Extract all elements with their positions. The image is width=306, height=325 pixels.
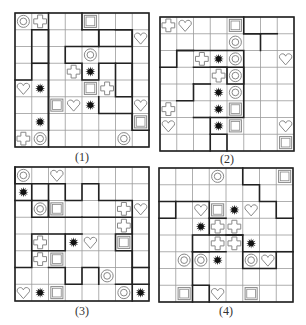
puzzle-grid-3 (15, 167, 149, 301)
star-icon (35, 83, 45, 93)
panel-label-4: (4) (196, 304, 256, 319)
ring-icon (229, 70, 241, 82)
cross-icon (34, 236, 47, 249)
ring-icon (229, 86, 241, 98)
cross-icon (17, 132, 30, 145)
heart-icon (162, 121, 174, 132)
cross-icon (211, 220, 224, 233)
heart-icon (134, 204, 146, 215)
star-icon (214, 87, 224, 97)
cross-icon (118, 203, 131, 216)
puzzle-panel-2: (2) (160, 17, 294, 177)
square-icon (51, 287, 63, 299)
ring-icon (17, 169, 29, 181)
star-icon (85, 100, 95, 110)
square-icon (178, 288, 190, 300)
heart-icon (17, 83, 29, 94)
square-icon (212, 204, 224, 216)
ring-icon (17, 15, 29, 27)
cross-icon (228, 220, 241, 233)
ring-icon (84, 49, 96, 61)
ring-icon (34, 203, 46, 215)
puzzle-grid-4 (159, 168, 293, 302)
puzzle-grid-1 (15, 13, 149, 147)
panel-label-2: (2) (197, 152, 257, 167)
puzzle-panel-1: (1) (15, 13, 149, 173)
square-icon (51, 203, 63, 215)
star-icon (69, 237, 79, 247)
heart-icon (51, 170, 63, 181)
panel-label-3: (3) (52, 304, 112, 319)
square-icon (51, 253, 63, 265)
cross-icon (67, 65, 80, 78)
puzzle-panel-4: (4) (159, 168, 293, 325)
heart-icon (134, 100, 146, 111)
cross-icon (212, 69, 225, 82)
star-icon (196, 222, 206, 232)
panel-label-1: (1) (52, 150, 112, 165)
star-icon (213, 255, 223, 265)
star-icon (35, 117, 45, 127)
square-icon (51, 99, 63, 111)
square-icon (135, 116, 147, 128)
star-icon (136, 288, 146, 298)
cross-icon (162, 19, 175, 32)
star-icon (18, 187, 28, 197)
square-icon (118, 236, 130, 248)
star-icon (35, 288, 45, 298)
ring-icon (195, 254, 207, 266)
square-icon (280, 137, 292, 149)
puzzle-panel-3: (3) (15, 167, 149, 325)
heart-icon (134, 33, 146, 44)
heart-icon (245, 205, 257, 216)
star-icon (85, 67, 95, 77)
cross-icon (228, 237, 241, 250)
heart-icon (262, 255, 274, 266)
heart-icon (195, 205, 207, 216)
ring-icon (101, 270, 113, 282)
square-icon (229, 19, 241, 31)
ring-icon (178, 254, 190, 266)
ring-icon (229, 36, 241, 48)
cross-icon (34, 253, 47, 266)
cross-icon (211, 237, 224, 250)
cross-icon (118, 219, 131, 232)
heart-icon (279, 121, 291, 132)
square-icon (229, 103, 241, 115)
square-icon (229, 120, 241, 132)
square-icon (245, 288, 257, 300)
star-icon (214, 104, 224, 114)
star-icon (229, 205, 239, 215)
heart-icon (279, 54, 291, 65)
star-icon (246, 238, 256, 248)
square-icon (84, 82, 96, 94)
heart-icon (179, 20, 191, 31)
cross-icon (34, 15, 47, 28)
square-icon (84, 15, 96, 27)
cross-icon (101, 82, 114, 95)
ring-icon (212, 170, 224, 182)
ring-icon (118, 133, 130, 145)
heart-icon (67, 100, 79, 111)
ring-icon (245, 254, 257, 266)
heart-icon (17, 288, 29, 299)
puzzle-grid-2 (160, 17, 294, 151)
square-icon (279, 170, 291, 182)
ring-icon (118, 287, 130, 299)
star-icon (214, 54, 224, 64)
heart-icon (84, 237, 96, 248)
heart-icon (211, 289, 223, 300)
ring-icon (34, 133, 46, 145)
cross-icon (162, 103, 175, 116)
cross-icon (196, 53, 209, 66)
star-icon (214, 121, 224, 131)
ring-icon (229, 53, 241, 65)
